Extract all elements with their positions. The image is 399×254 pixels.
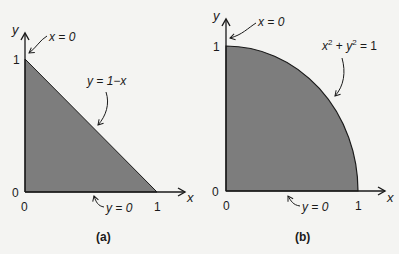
quarter-disk-region: [226, 46, 358, 191]
tick-y-origin: 0: [212, 185, 219, 199]
eq-rhs: = 1: [357, 39, 378, 53]
pointer-arrow-icon: [94, 196, 104, 207]
y-axis-label: y: [212, 8, 221, 23]
label-x-equals-0: x = 0: [48, 30, 76, 44]
figure: y x 1 0 0 1 x = 0 y = 1−x y = 0 (a) y x …: [0, 0, 399, 254]
tick-y-origin: 0: [12, 186, 19, 200]
tick-x-one: 1: [154, 200, 161, 214]
label-hypotenuse: y = 1−x: [86, 74, 127, 88]
eq-plus: +: [332, 39, 346, 53]
pointer-arrow-icon: [29, 36, 47, 53]
tick-x-origin: 0: [21, 200, 28, 214]
tick-x-one: 1: [355, 199, 362, 213]
tick-x-origin: 0: [223, 199, 230, 213]
x-axis-label: x: [386, 190, 394, 205]
panel-b: y x 1 0 0 1 x = 0 x2 + y2 = 1 y = 0 (b): [212, 8, 394, 244]
label-circle-equation: x2 + y2 = 1: [321, 38, 377, 53]
pointer-arrow-icon: [288, 196, 300, 206]
panel-a: y x 1 0 0 1 x = 0 y = 1−x y = 0 (a): [11, 22, 194, 244]
tick-y-one: 1: [213, 40, 220, 54]
caption-b: (b): [295, 230, 310, 244]
x-axis-label: x: [186, 190, 194, 205]
label-y-equals-0: y = 0: [301, 200, 329, 214]
pointer-arrow-icon: [335, 58, 344, 96]
tick-y-one: 1: [13, 53, 20, 67]
pointer-arrow-icon: [98, 92, 108, 125]
label-x-equals-0: x = 0: [257, 15, 285, 29]
label-y-equals-0: y = 0: [105, 201, 133, 215]
caption-a: (a): [96, 230, 111, 244]
pointer-arrow-icon: [230, 23, 256, 38]
y-axis-label: y: [11, 22, 20, 37]
